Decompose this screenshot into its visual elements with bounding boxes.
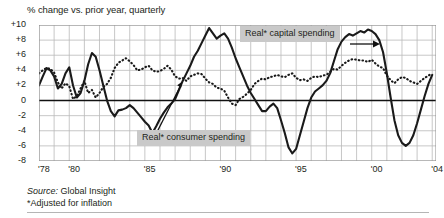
y-tick-label: +10 (0, 19, 26, 29)
source-note: Source: Global Insight (27, 186, 116, 196)
y-tick-label: +4 (0, 64, 26, 74)
callout-capital-text: Real* capital spending (245, 28, 335, 38)
callout-consumer-spending: Real* consumer spending (137, 130, 250, 146)
x-tick-label: '90 (219, 164, 231, 174)
x-tick-label: '85 (144, 164, 156, 174)
bottom-divider (27, 212, 429, 213)
y-tick-label: +6 (0, 49, 26, 59)
y-tick-label: -8 (0, 155, 26, 165)
y-tick-label: -6 (0, 140, 26, 150)
y-tick-label: +8 (0, 34, 26, 44)
source-label: Source: (27, 186, 58, 196)
y-tick-label: -4 (0, 125, 26, 135)
x-tick-label: '80 (68, 164, 80, 174)
footnote: *Adjusted for inflation (27, 198, 112, 208)
x-tick-label: '95 (295, 164, 307, 174)
y-tick-label: -2 (0, 110, 26, 120)
callout-capital-spending: Real* capital spending (240, 26, 340, 42)
chart-subtitle: % change vs. prior year, quarterly (27, 4, 165, 15)
x-tick-label: '04 (431, 164, 443, 174)
callout-consumer-text: Real* consumer spending (142, 132, 245, 142)
chart-figure: % change vs. prior year, quarterly +10+8… (0, 0, 444, 218)
source-value: Global Insight (58, 186, 116, 196)
y-tick-label: 0 (0, 95, 26, 105)
y-tick-label: +2 (0, 79, 26, 89)
x-tick-label: '78 (38, 164, 50, 174)
x-tick-label: '00 (371, 164, 383, 174)
